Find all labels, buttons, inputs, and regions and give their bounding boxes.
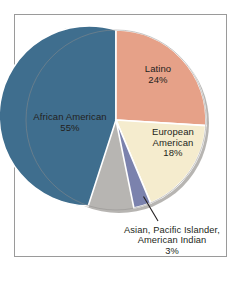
slice-label-other-name-line2: American Indian	[108, 235, 236, 245]
slice-label-european-american: European American 18%	[140, 127, 206, 159]
slice-label-latino: Latino 24%	[127, 64, 189, 85]
slice-label-african-american-value: 55%	[18, 123, 122, 134]
slice-label-other-value: 3%	[108, 246, 236, 256]
slice-label-other-name-line1: Asian, Pacific Islander,	[108, 225, 236, 235]
slice-label-asian-pacific-islander-american-indian: Asian, Pacific Islander, American Indian…	[108, 225, 236, 256]
slice-label-european-american-value: 18%	[140, 148, 206, 159]
slice-label-african-american: African American 55%	[18, 112, 122, 133]
pie-chart-figure: African American 55% Latino 24% European…	[0, 0, 244, 285]
slice-label-latino-value: 24%	[127, 75, 189, 86]
